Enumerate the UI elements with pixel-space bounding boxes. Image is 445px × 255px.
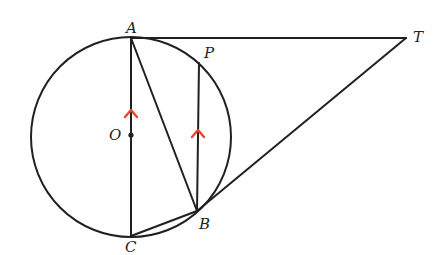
label-P: P: [203, 44, 215, 62]
label-O: O: [109, 126, 121, 144]
chord-AB: [131, 38, 197, 211]
chord-PB: [197, 63, 199, 211]
label-C: C: [125, 238, 137, 255]
center-point-O: [128, 132, 133, 137]
tangent-TB: [197, 38, 406, 211]
geometry-diagram: A T P O B C: [0, 0, 445, 255]
label-T: T: [413, 28, 424, 46]
label-A: A: [124, 19, 137, 37]
label-B: B: [198, 215, 210, 233]
